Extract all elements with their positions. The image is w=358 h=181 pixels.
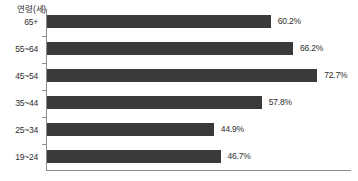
bar-value-label: 66.2% <box>300 42 323 55</box>
bar-value-label: 60.2% <box>278 15 301 28</box>
bar-value-label: 46.7% <box>228 150 251 163</box>
category-label: 45~54 <box>0 70 38 82</box>
bar-row: 19~2446.7% <box>0 144 358 171</box>
bar-row: 45~5472.7% <box>0 63 358 90</box>
bar <box>47 123 214 136</box>
bar-fill <box>47 123 214 136</box>
axis-tick <box>42 117 46 118</box>
category-label: 19~24 <box>0 151 38 163</box>
bar-row: 25~3444.9% <box>0 117 358 144</box>
bar-value-label: 57.8% <box>269 96 292 109</box>
category-label: 65+ <box>0 16 38 28</box>
category-label: 55~64 <box>0 43 38 55</box>
plot-area: 65+60.2%55~6466.2%45~5472.7%35~4457.8%25… <box>0 9 358 171</box>
axis-tick <box>42 144 46 145</box>
bar-fill <box>47 150 221 163</box>
bar <box>47 150 221 163</box>
bar-fill <box>47 42 293 55</box>
axis-tick <box>42 63 46 64</box>
bar-value-label: 72.7% <box>324 69 347 82</box>
bar <box>47 69 317 82</box>
bar-row: 55~6466.2% <box>0 36 358 63</box>
bar-fill <box>47 69 317 82</box>
category-label: 25~34 <box>0 124 38 136</box>
bar-value-label: 44.9% <box>221 123 244 136</box>
axis-tick <box>42 9 46 10</box>
bar-row: 65+60.2% <box>0 9 358 36</box>
bar-chart: 연령(세) 65+60.2%55~6466.2%45~5472.7%35~445… <box>0 0 358 181</box>
bar <box>47 15 271 28</box>
axis-tick <box>42 36 46 37</box>
bar <box>47 96 262 109</box>
bar-fill <box>47 15 271 28</box>
bar-fill <box>47 96 262 109</box>
bar-row: 35~4457.8% <box>0 90 358 117</box>
axis-tick <box>42 90 46 91</box>
category-label: 35~44 <box>0 97 38 109</box>
bar <box>47 42 293 55</box>
